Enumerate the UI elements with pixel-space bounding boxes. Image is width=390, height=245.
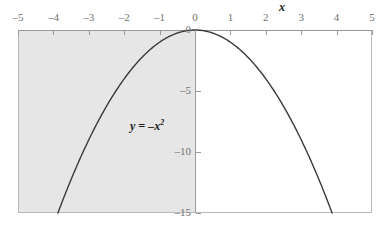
x-tick-label: 4	[322, 11, 352, 23]
y-tick-label: –5	[157, 84, 191, 97]
equation-annotation: y = –x2	[130, 118, 164, 134]
x-tick	[53, 30, 54, 35]
x-tick-label: –5	[3, 11, 33, 23]
x-axis-title: x	[279, 0, 285, 15]
x-tick	[266, 30, 267, 35]
x-tick-label: –1	[145, 11, 175, 23]
y-tick	[196, 213, 201, 214]
y-tick	[196, 152, 201, 153]
x-tick-label: –4	[38, 11, 68, 23]
x-tick-label: 0	[180, 11, 210, 23]
y-tick-label: 0	[157, 23, 191, 36]
x-tick-label: –2	[109, 11, 139, 23]
x-tick	[18, 30, 19, 35]
x-tick-label: 3	[286, 11, 316, 23]
x-tick-label: –3	[74, 11, 104, 23]
x-tick-label: 5	[357, 11, 387, 23]
parabola-curve	[58, 30, 332, 213]
y-tick-label: –15	[157, 206, 191, 219]
curve-layer	[18, 30, 372, 213]
y-tick-label: –10	[157, 145, 191, 158]
equation-text: y = –x	[130, 119, 160, 133]
x-tick	[89, 30, 90, 35]
x-tick	[230, 30, 231, 35]
x-tick	[195, 30, 196, 35]
x-tick	[372, 30, 373, 35]
x-tick-label: 2	[251, 11, 281, 23]
x-tick-label: 1	[215, 11, 245, 23]
x-tick	[124, 30, 125, 35]
equation-exponent: 2	[160, 118, 164, 127]
x-tick	[337, 30, 338, 35]
y-tick	[196, 91, 201, 92]
parabola-figure: –5–4–3–2–1012345 0–5–10–15 x y = –x2	[0, 0, 390, 245]
x-tick	[301, 30, 302, 35]
